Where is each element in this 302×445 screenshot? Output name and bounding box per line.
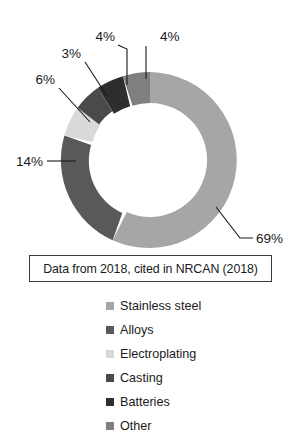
legend-label-other: Other (120, 420, 152, 433)
legend-swatch-stainless-steel (106, 302, 114, 310)
legend-label-casting: Casting (120, 372, 163, 385)
legend-item-other[interactable]: Other (106, 414, 296, 438)
caption-text: Data from 2018, cited in NRCAN (2018) (43, 262, 258, 276)
legend-label-batteries: Batteries (120, 396, 170, 409)
pct-label-alloys: 14% (16, 154, 43, 169)
legend-item-batteries[interactable]: Batteries (106, 390, 296, 414)
donut-chart-figure: 69% 14% 6% 3% 4% 4% Data from 2018, cite… (0, 0, 302, 445)
pct-label-electroplating: 6% (35, 72, 55, 87)
donut-chart-plot-area: 69% 14% 6% 3% 4% 4% (0, 0, 302, 255)
legend-item-casting[interactable]: Casting (106, 366, 296, 390)
legend-label-stainless-steel: Stainless steel (120, 300, 201, 313)
legend-item-electroplating[interactable]: Electroplating (106, 342, 296, 366)
chart-legend: Stainless steel Alloys Electroplating Ca… (106, 294, 296, 438)
pct-label-batteries: 4% (95, 29, 115, 44)
legend-item-stainless-steel[interactable]: Stainless steel (106, 294, 296, 318)
donut-segment-alloys[interactable] (61, 135, 122, 240)
legend-label-electroplating: Electroplating (120, 348, 196, 361)
legend-swatch-electroplating (106, 350, 114, 358)
pct-label-other: 4% (160, 29, 180, 44)
leader-line-stainless-steel (216, 207, 253, 238)
legend-swatch-alloys (106, 326, 114, 334)
legend-swatch-other (106, 422, 114, 430)
donut-chart-svg: 69% 14% 6% 3% 4% 4% (0, 0, 302, 255)
legend-label-alloys: Alloys (120, 324, 154, 337)
donut-segments (61, 72, 237, 248)
pct-label-casting: 3% (61, 46, 81, 61)
pct-label-stainless-steel: 69% (256, 231, 283, 246)
legend-item-alloys[interactable]: Alloys (106, 318, 296, 342)
legend-swatch-batteries (106, 398, 114, 406)
caption-box: Data from 2018, cited in NRCAN (2018) (29, 255, 272, 282)
legend-swatch-casting (106, 374, 114, 382)
